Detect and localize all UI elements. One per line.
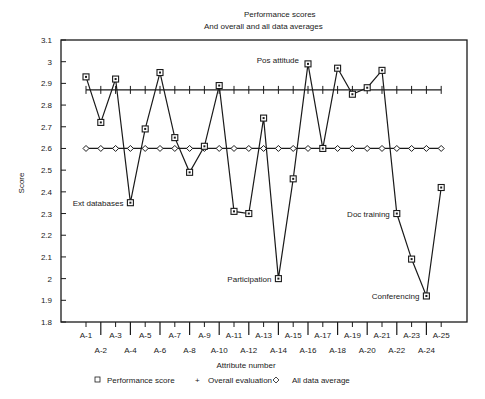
y-tick-label: 2.6 (41, 144, 53, 153)
diamond-marker-icon (273, 377, 279, 383)
x-tick-label: A-1 (80, 331, 93, 340)
x-tick-label: A-9 (198, 331, 211, 340)
x-tick-label: A-10 (211, 346, 228, 355)
y-tick-label: 2.3 (41, 210, 53, 219)
y-tick-label: 3 (48, 58, 53, 67)
y-axis: 1.81.922.12.22.32.42.52.62.72.82.933.1 (41, 36, 66, 327)
legend-item-all-data-average: All data average (273, 376, 350, 385)
legend-label: Performance score (107, 376, 175, 385)
x-tick-label: A-2 (95, 346, 108, 355)
y-tick-label: 1.9 (41, 296, 53, 305)
x-tick-label: A-21 (374, 331, 391, 340)
legend-label: All data average (292, 376, 350, 385)
x-tick-label: A-5 (139, 331, 152, 340)
x-tick-label: A-11 (226, 331, 243, 340)
y-tick-label: 2.1 (41, 253, 53, 262)
x-tick-label: A-22 (388, 346, 405, 355)
x-axis: A-1A-2A-3A-4A-5A-6A-7A-8A-9A-10A-11A-12A… (80, 322, 450, 355)
legend: Performance score + Overall evaluation A… (95, 376, 350, 385)
y-tick-label: 2 (48, 275, 53, 284)
series-layer (83, 61, 444, 299)
y-tick-label: 2.4 (41, 188, 53, 197)
y-axis-title: Score (17, 172, 26, 193)
x-tick-label: A-7 (169, 331, 182, 340)
y-tick-label: 1.8 (41, 318, 53, 327)
x-tick-label: A-14 (270, 346, 287, 355)
x-tick-label: A-16 (300, 346, 317, 355)
x-tick-label: A-20 (359, 346, 376, 355)
x-tick-label: A-8 (183, 346, 196, 355)
x-tick-label: A-15 (285, 331, 302, 340)
x-tick-label: A-4 (124, 346, 137, 355)
plus-marker-icon: + (195, 376, 200, 385)
series-line-performance-score (86, 64, 441, 296)
x-tick-label: A-3 (109, 331, 122, 340)
x-tick-label: A-17 (314, 331, 331, 340)
x-tick-label: A-18 (329, 346, 346, 355)
chart-subtitle: And overall and all data averages (204, 22, 323, 31)
x-tick-label: A-6 (154, 346, 167, 355)
annotation-label: Doc training (347, 210, 390, 219)
x-tick-label: A-19 (344, 331, 361, 340)
x-axis-title: Attribute number (216, 361, 275, 370)
y-tick-label: 2.2 (41, 231, 53, 240)
x-tick-label: A-12 (240, 346, 257, 355)
annotation-label: Participation (227, 275, 271, 284)
annotation-label: Ext databases (73, 199, 124, 208)
y-tick-label: 2.5 (41, 166, 53, 175)
legend-label: Overall evaluation (208, 376, 272, 385)
x-tick-label: A-25 (433, 331, 450, 340)
y-tick-label: 2.8 (41, 101, 53, 110)
y-tick-label: 2.7 (41, 123, 53, 132)
square-marker-icon (95, 377, 100, 382)
legend-item-overall-evaluation: + Overall evaluation (195, 376, 272, 385)
performance-chart: Performance scores And overall and all d… (0, 0, 485, 399)
x-tick-label: A-24 (418, 346, 435, 355)
legend-item-performance-score: Performance score (95, 376, 175, 385)
y-tick-label: 2.9 (41, 79, 53, 88)
x-tick-label: A-13 (255, 331, 272, 340)
chart-title: Performance scores (244, 10, 316, 19)
annotation-label: Pos attitude (257, 56, 300, 65)
y-tick-label: 3.1 (41, 36, 53, 45)
annotation-label: Conferencing (372, 292, 420, 301)
x-tick-label: A-23 (403, 331, 420, 340)
